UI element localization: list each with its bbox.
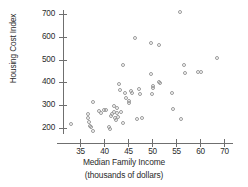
data-point <box>91 129 95 133</box>
data-point <box>115 106 119 110</box>
y-tick-label: 400 <box>29 77 55 86</box>
y-axis-line <box>63 10 64 134</box>
data-point <box>127 101 131 105</box>
data-point <box>149 41 153 45</box>
data-point <box>182 63 186 67</box>
data-point <box>151 86 155 90</box>
data-point <box>123 91 127 95</box>
x-tick-mark <box>152 139 153 147</box>
y-tick-label: 200 <box>29 123 55 132</box>
data-point <box>138 92 142 96</box>
x-tick-mark <box>80 139 81 147</box>
x-axis-line <box>57 143 233 144</box>
y-tick-mark <box>59 14 67 15</box>
y-tick-mark <box>59 60 67 61</box>
data-point <box>91 100 95 104</box>
x-tick-mark <box>104 139 105 147</box>
x-axis-label: Median Family Income <box>0 157 248 167</box>
data-point <box>108 127 112 131</box>
data-point <box>183 71 187 75</box>
x-tick-mark <box>224 139 225 147</box>
y-tick-label: 300 <box>29 100 55 109</box>
data-point <box>178 10 182 14</box>
data-point <box>104 108 108 112</box>
y-axis-label: Housing Cost Index <box>9 3 18 95</box>
x-tick-label: 55 <box>167 147 187 156</box>
data-point <box>69 122 73 126</box>
x-tick-mark <box>200 139 201 147</box>
data-point <box>119 110 123 114</box>
data-point <box>117 82 121 86</box>
x-tick-label: 40 <box>95 147 115 156</box>
y-tick-mark <box>59 37 67 38</box>
data-point <box>137 87 141 91</box>
y-tick-mark <box>59 82 67 83</box>
data-point <box>170 91 174 95</box>
y-tick-mark <box>59 128 67 129</box>
y-tick-mark <box>59 105 67 106</box>
data-point <box>86 116 90 120</box>
x-tick-mark <box>176 139 177 147</box>
data-point <box>121 121 125 125</box>
data-point <box>118 88 122 92</box>
data-point <box>133 36 137 40</box>
data-point <box>140 116 144 120</box>
data-point <box>121 63 125 67</box>
data-point <box>157 43 161 47</box>
x-tick-label: 50 <box>143 147 163 156</box>
data-point <box>149 72 153 76</box>
data-point <box>179 117 183 121</box>
data-point <box>87 120 91 124</box>
y-tick-label: 500 <box>29 55 55 64</box>
x-tick-label: 35 <box>71 147 91 156</box>
data-point <box>199 70 203 74</box>
x-tick-label: 45 <box>119 147 139 156</box>
x-axis-label-units: (thousands of dollars) <box>0 170 248 180</box>
data-point <box>158 81 162 85</box>
x-tick-label: 70 <box>215 147 235 156</box>
x-tick-label: 60 <box>191 147 211 156</box>
data-point <box>135 117 139 121</box>
data-point <box>130 91 134 95</box>
x-tick-mark <box>128 139 129 147</box>
data-point <box>171 107 175 111</box>
scatter-plot-figure: Housing Cost Index 200300400500600700 35… <box>0 0 248 187</box>
data-point <box>116 115 120 119</box>
y-tick-label: 700 <box>29 9 55 18</box>
data-point <box>215 56 219 60</box>
data-point <box>150 92 154 96</box>
y-tick-label: 600 <box>29 32 55 41</box>
